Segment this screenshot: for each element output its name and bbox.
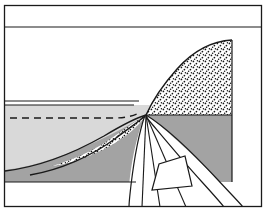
cross-section-figure — [0, 0, 268, 213]
cross-section-canvas — [0, 0, 268, 213]
